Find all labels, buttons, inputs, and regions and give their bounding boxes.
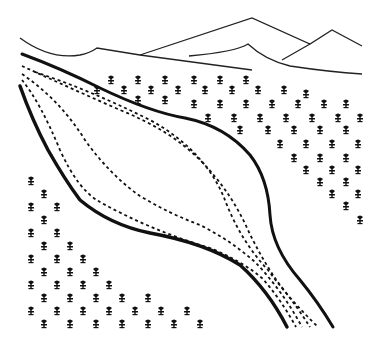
glacier-diagram	[0, 0, 378, 346]
mountain-ridges	[20, 18, 362, 74]
glacier-outline	[20, 54, 333, 327]
trees-left-slope	[28, 177, 203, 329]
trees-right-slope	[94, 76, 363, 225]
